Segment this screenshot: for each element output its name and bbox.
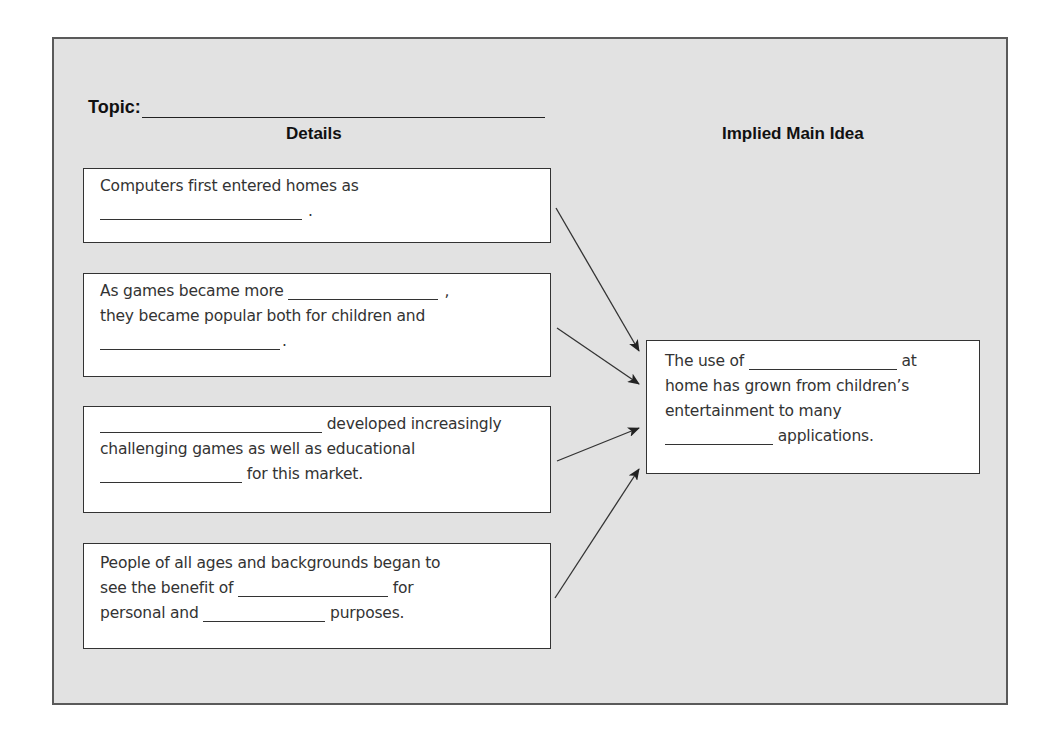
answer-blank[interactable] bbox=[100, 331, 280, 350]
detail-line: they became popular both for children an… bbox=[100, 304, 550, 329]
topic-blank[interactable] bbox=[142, 99, 545, 118]
detail-text: As games became more bbox=[100, 282, 288, 300]
answer-blank[interactable] bbox=[100, 464, 242, 483]
main-idea-text: entertainment to many bbox=[665, 402, 841, 420]
detail-line: As games became more , bbox=[100, 279, 550, 304]
main-idea-heading: Implied Main Idea bbox=[722, 124, 864, 144]
main-idea-line: applications. bbox=[665, 424, 979, 449]
main-idea-text: at bbox=[897, 352, 917, 370]
detail-box-4: People of all ages and backgrounds began… bbox=[83, 543, 551, 649]
detail-line: . bbox=[100, 199, 550, 224]
answer-blank[interactable] bbox=[100, 201, 302, 220]
detail-text: for this market. bbox=[242, 465, 363, 483]
detail-line: challenging games as well as educational bbox=[100, 437, 550, 462]
detail-text: People of all ages and backgrounds began… bbox=[100, 554, 440, 572]
main-idea-line: entertainment to many bbox=[665, 399, 979, 424]
detail-text: developed increasingly bbox=[322, 415, 502, 433]
answer-blank[interactable] bbox=[665, 426, 773, 445]
detail-line: Computers first entered homes as bbox=[100, 174, 550, 199]
detail-text: . bbox=[282, 332, 287, 350]
detail-text: challenging games as well as educational bbox=[100, 440, 415, 458]
detail-line: developed increasingly bbox=[100, 412, 550, 437]
main-idea-line: The use of at bbox=[665, 349, 979, 374]
detail-box-1: Computers first entered homes as . bbox=[83, 168, 551, 243]
answer-blank[interactable] bbox=[238, 578, 388, 597]
detail-line: see the benefit of for bbox=[100, 576, 550, 601]
answer-blank[interactable] bbox=[203, 603, 325, 622]
main-idea-box: The use of at home has grown from childr… bbox=[646, 340, 980, 474]
main-idea-text: applications. bbox=[773, 427, 874, 445]
detail-text: for bbox=[388, 579, 413, 597]
answer-blank[interactable] bbox=[749, 351, 897, 370]
detail-text: purposes. bbox=[325, 604, 404, 622]
detail-line: for this market. bbox=[100, 462, 550, 487]
answer-blank[interactable] bbox=[288, 281, 438, 300]
detail-line: personal and purposes. bbox=[100, 601, 550, 626]
main-idea-text: home has grown from children’s bbox=[665, 377, 909, 395]
topic-field: Topic: bbox=[88, 97, 545, 118]
detail-box-3: developed increasingly challenging games… bbox=[83, 406, 551, 513]
detail-text: . bbox=[308, 202, 313, 220]
topic-label: Topic: bbox=[88, 97, 141, 118]
detail-line: People of all ages and backgrounds began… bbox=[100, 551, 550, 576]
detail-line: . bbox=[100, 329, 550, 354]
detail-box-2: As games became more , they became popul… bbox=[83, 273, 551, 377]
detail-text: Computers first entered homes as bbox=[100, 177, 359, 195]
detail-text: personal and bbox=[100, 604, 203, 622]
answer-blank[interactable] bbox=[100, 414, 322, 433]
detail-text: they became popular both for children an… bbox=[100, 307, 425, 325]
main-idea-line: home has grown from children’s bbox=[665, 374, 979, 399]
details-heading: Details bbox=[286, 124, 342, 144]
detail-text: see the benefit of bbox=[100, 579, 238, 597]
detail-text: , bbox=[444, 282, 449, 300]
main-idea-text: The use of bbox=[665, 352, 749, 370]
